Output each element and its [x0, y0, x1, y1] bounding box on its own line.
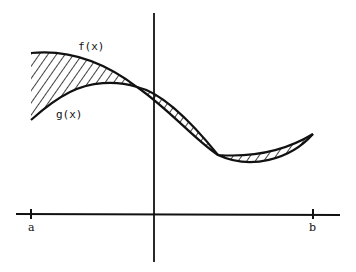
area-between-curves-diagram: f(x) g(x) a b [0, 0, 356, 272]
x-axis [16, 214, 340, 215]
label-g: g(x) [56, 108, 83, 121]
label-a: a [28, 221, 35, 234]
label-f: f(x) [78, 40, 105, 53]
label-b: b [309, 221, 316, 234]
